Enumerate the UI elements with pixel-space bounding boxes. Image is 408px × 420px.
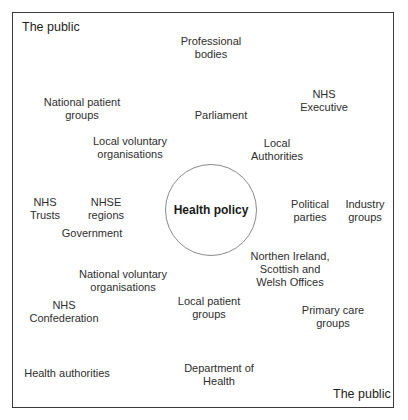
corner-label-top-left: The public (22, 20, 80, 35)
stakeholder-local-patient-groups: Local patient groups (178, 295, 240, 321)
stakeholder-devolved-offices: Northen Ireland, Scottish and Welsh Offi… (251, 250, 330, 289)
stakeholder-nhs-executive: NHS Executive (300, 88, 348, 114)
stakeholder-nhse-regions: NHSE regions (88, 196, 124, 222)
stakeholder-national-patient-groups: National patient groups (44, 96, 120, 122)
stakeholder-industry-groups: Industry groups (345, 198, 384, 224)
health-policy-circle: Health policy (165, 164, 257, 256)
stakeholder-government: Government (62, 227, 123, 240)
health-policy-label: Health policy (174, 203, 249, 217)
stakeholder-local-voluntary-organisations: Local voluntary organisations (93, 135, 167, 161)
stakeholder-parliament: Parliament (195, 109, 248, 122)
stakeholder-nhs-trusts: NHS Trusts (30, 196, 60, 222)
stakeholder-political-parties: Political parties (291, 198, 329, 224)
stakeholder-department-of-health: Department of Health (184, 362, 254, 388)
stakeholder-primary-care-groups: Primary care groups (302, 304, 364, 330)
stakeholder-local-authorities: Local Authorities (251, 137, 303, 163)
stakeholder-nhs-confederation: NHS Confederation (29, 299, 98, 325)
stakeholder-professional-bodies: Professional bodies (181, 35, 242, 61)
corner-label-bottom-right: The public (333, 387, 391, 402)
stakeholder-national-voluntary-organisations: National voluntary organisations (79, 268, 167, 294)
stakeholder-health-authorities: Health authorities (24, 367, 110, 380)
